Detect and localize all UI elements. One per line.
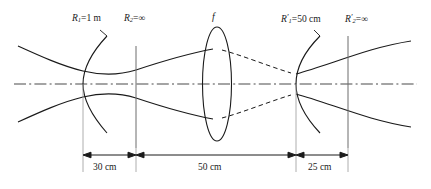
beam-upper-left [18, 46, 213, 74]
beam-upper-dashed [222, 50, 291, 73]
label-focal-length: f [212, 12, 215, 22]
beam-lower-right [296, 94, 411, 127]
beam-upper-right [296, 41, 411, 74]
optics-figure: R1=1 m R2=∞ f R′1=50 cm R′2=∞ 30 cm 50 c… [0, 0, 431, 189]
dim-arrowhead-25-left [296, 152, 304, 158]
label-r2-value: =∞ [133, 13, 145, 23]
dim-arrowhead-25-right [340, 152, 348, 158]
label-r1-prime-value: =50 cm [292, 14, 321, 24]
beam-lower-dashed [222, 95, 291, 118]
label-r2-prime: R′2=∞ [345, 14, 368, 25]
beam-lower-left [18, 94, 213, 122]
leader-right-mirror [314, 30, 320, 36]
label-r1-prime: R′1=50 cm [281, 14, 321, 25]
dimension-arrows [83, 152, 348, 158]
label-r2: R2=∞ [124, 14, 145, 24]
dim-arrowhead-50-left [136, 152, 144, 158]
diagram-canvas [0, 0, 431, 189]
dimension-label-center: 50 cm [198, 163, 221, 173]
label-r2-prime-value: =∞ [356, 14, 368, 24]
leader-left-mirror [100, 30, 107, 36]
label-r1-value: =1 m [81, 13, 101, 23]
dimension-label-left: 30 cm [93, 163, 116, 173]
label-r1: R1=1 m [72, 14, 101, 24]
dimension-label-right: 25 cm [308, 163, 331, 173]
dim-arrowhead-30-left [83, 152, 91, 158]
